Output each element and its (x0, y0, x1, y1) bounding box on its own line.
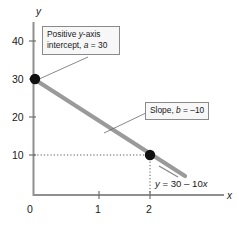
y-tick-label-20: 20 (12, 111, 24, 123)
slope-leader-line (104, 112, 148, 133)
callout-intercept: Positive y-axis intercept, a = 30 (42, 26, 120, 55)
y-tick-label-30: 30 (12, 73, 24, 85)
equation-label: y = 30 – 10x (155, 178, 208, 189)
intercept-leader-line (37, 57, 88, 80)
callout-slope: Slope, b = –10 (145, 102, 209, 120)
callout-intercept-line2-post: = 30 (88, 40, 107, 50)
y-axis-label: y (36, 6, 41, 17)
x-tick-label-1: 1 (95, 203, 101, 215)
data-point-x2 (145, 150, 155, 160)
equation-var-x: x (203, 178, 208, 189)
callout-intercept-line2: intercept, a = 30 (47, 40, 115, 51)
callout-intercept-line1: Positive y-axis (47, 29, 115, 40)
x-tick-label-2: 2 (146, 203, 152, 215)
data-point-intercept (30, 74, 40, 84)
y-tick-label-10: 10 (12, 149, 24, 161)
callout-slope-post: = –10 (181, 105, 205, 115)
linear-function-chart: y x 40 30 20 10 0 1 2 Positive y-axis in… (0, 0, 239, 230)
callout-intercept-line1-pre: Positive (47, 29, 79, 39)
callout-slope-pre: Slope, (150, 105, 176, 115)
callout-intercept-line1-post: -axis (83, 29, 101, 39)
origin-label: 0 (27, 203, 33, 215)
equation-mid: = 30 – 10 (160, 178, 203, 189)
function-line (34, 79, 185, 176)
callout-intercept-line2-pre: intercept, (47, 40, 84, 50)
y-tick-label-40: 40 (12, 35, 24, 47)
x-axis-label: x (227, 190, 232, 201)
